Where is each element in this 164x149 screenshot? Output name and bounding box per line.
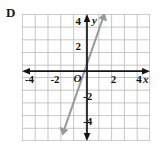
y-tick-label-neg2: -2: [83, 90, 93, 102]
coordinate-plane: -4 -2 2 4 4 2 -2 -4 O x y: [22, 14, 150, 141]
x-axis-name: x: [142, 73, 149, 85]
y-tick-label-pos4: 4: [76, 15, 82, 27]
x-tick-label-neg2: -2: [50, 73, 60, 85]
x-tick-label-pos2: 2: [111, 73, 117, 85]
origin-label: O: [74, 72, 82, 84]
problem-letter-label: D: [6, 6, 15, 19]
x-tick-label-neg4: -4: [25, 73, 35, 85]
y-axis-arrow-down: [84, 133, 91, 141]
x-tick-label-pos4: 4: [136, 73, 142, 85]
y-tick-label-pos2: 2: [76, 40, 82, 52]
coordinate-plane-svg: -4 -2 2 4 4 2 -2 -4 O x y: [22, 14, 150, 141]
graph-figure: D: [0, 0, 164, 149]
y-axis-name: y: [90, 14, 97, 26]
y-tick-label-neg4: -4: [83, 115, 93, 127]
y-axis-arrow-up: [84, 14, 91, 22]
